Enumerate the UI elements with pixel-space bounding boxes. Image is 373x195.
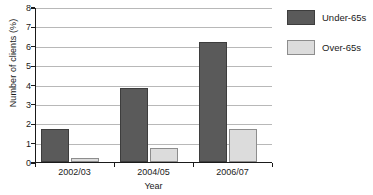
bar-2002-03-over-65s (71, 158, 99, 162)
y-tick-mark (31, 85, 35, 86)
y-tick-label: 1 (7, 139, 31, 148)
y-tick-label: 7 (7, 23, 31, 32)
gridline (36, 105, 272, 106)
bar-2002-03-under-65s (41, 129, 69, 162)
y-tick-mark (31, 124, 35, 125)
gridline (36, 124, 272, 125)
y-tick-label: 6 (7, 42, 31, 51)
y-tick-mark (31, 7, 35, 8)
y-tick-mark (31, 104, 35, 105)
legend-swatch-under-65s (287, 10, 315, 25)
gridline (36, 47, 272, 48)
legend-label: Under-65s (322, 12, 366, 23)
x-axis-title: Year (35, 181, 272, 191)
y-tick-mark (31, 162, 35, 163)
gridline (36, 27, 272, 28)
legend-item-over-65s: Over-65s (287, 38, 366, 56)
bar-chart-figure: Number of clients (%) 012345678 2002/032… (0, 0, 373, 195)
y-tick-mark (31, 27, 35, 28)
legend-label: Over-65s (322, 42, 361, 53)
x-tick-label: 2002/03 (58, 167, 91, 177)
bar-2004-05-over-65s (150, 148, 178, 162)
y-tick-label: 2 (7, 120, 31, 129)
chart-legend: Under-65sOver-65s (287, 8, 366, 68)
x-tick-mark (114, 163, 115, 167)
y-tick-mark (31, 143, 35, 144)
y-tick-label: 4 (7, 81, 31, 90)
bar-2006-07-over-65s (229, 129, 257, 162)
x-tick-label: 2006/07 (216, 167, 249, 177)
legend-item-under-65s: Under-65s (287, 8, 366, 26)
plot-inner (36, 8, 272, 162)
y-tick-label: 5 (7, 62, 31, 71)
gridline (36, 86, 272, 87)
x-tick-label: 2004/05 (137, 167, 170, 177)
y-tick-label: 3 (7, 100, 31, 109)
gridline (36, 8, 272, 9)
y-tick-mark (31, 46, 35, 47)
y-axis-ticks: 012345678 (0, 8, 31, 163)
y-tick-label: 0 (7, 159, 31, 168)
x-tick-mark (272, 163, 273, 167)
y-tick-label: 8 (7, 4, 31, 13)
bar-2006-07-under-65s (199, 42, 227, 162)
plot-area (35, 8, 272, 163)
bar-2004-05-under-65s (120, 88, 148, 162)
gridline (36, 66, 272, 67)
legend-swatch-over-65s (287, 40, 315, 55)
y-tick-mark (31, 66, 35, 67)
x-tick-mark (35, 163, 36, 167)
x-tick-mark (193, 163, 194, 167)
